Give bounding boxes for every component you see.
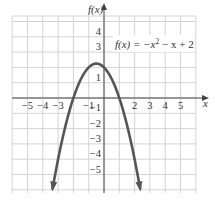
x-tick-label: −5 — [22, 100, 33, 111]
x-tick-label: 5 — [178, 100, 183, 111]
y-tick-label: −4 — [90, 148, 102, 159]
x-axis-label: x — [202, 97, 208, 109]
y-tick-label: 3 — [96, 41, 101, 52]
axes — [12, 3, 209, 193]
equation-label: f(x) = −x2 − x + 2 — [113, 35, 195, 52]
y-tick-label: −2 — [90, 118, 101, 129]
x-tick-label: −3 — [53, 100, 64, 111]
y-tick-label: 1 — [96, 72, 101, 83]
y-tick-label: −1 — [90, 102, 101, 113]
y-axis-label: f(x) — [88, 3, 104, 16]
x-tick-label: −4 — [37, 100, 49, 111]
y-tick-label: −3 — [90, 133, 101, 144]
svg-text:f(x) = −x2 − x + 2: f(x) = −x2 − x + 2 — [115, 37, 194, 51]
y-tick-label: 4 — [96, 26, 102, 37]
y-tick-label: −5 — [90, 164, 101, 175]
x-tick-label: 2 — [132, 100, 137, 111]
function-graph: −5−4−3−12345431−1−2−3−4−5 f(x) = −x2 − x… — [0, 0, 215, 205]
x-tick-label: 4 — [163, 100, 169, 111]
x-tick-label: 3 — [147, 100, 152, 111]
